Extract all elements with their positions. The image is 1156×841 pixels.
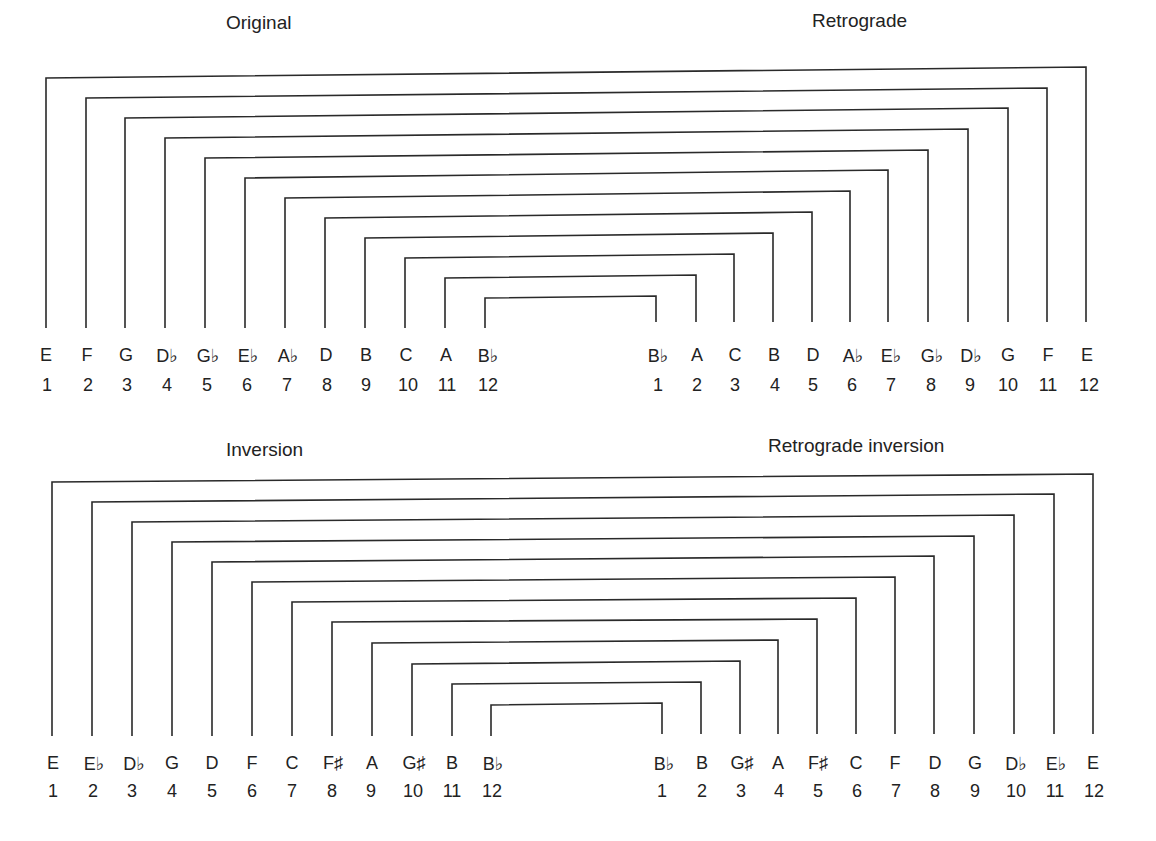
note: E♭: [74, 753, 114, 775]
note: B♭: [644, 753, 684, 775]
note: F: [875, 753, 915, 774]
position-number: 11: [1028, 375, 1068, 396]
note: F: [1028, 345, 1068, 366]
position-number: 5: [187, 375, 227, 396]
position-number: 10: [388, 375, 428, 396]
position-number: 2: [677, 375, 717, 396]
position-number: 3: [715, 375, 755, 396]
note: E♭: [228, 345, 268, 367]
position-number: 4: [152, 781, 192, 802]
position-number: 3: [112, 781, 152, 802]
position-number: 4: [147, 375, 187, 396]
note: C: [386, 345, 426, 366]
bracket-diagram: [0, 0, 1156, 841]
position-number: 1: [638, 375, 678, 396]
position-number: 9: [955, 781, 995, 802]
note: A♭: [833, 345, 873, 367]
position-number: 3: [721, 781, 761, 802]
note: C: [715, 345, 755, 366]
position-number: 7: [871, 375, 911, 396]
note: A: [426, 345, 466, 366]
note: F: [67, 345, 107, 366]
note: A♭: [268, 345, 308, 367]
position-number: 8: [312, 781, 352, 802]
position-number: 6: [232, 781, 272, 802]
note: D♭: [951, 345, 991, 367]
position-number: 6: [837, 781, 877, 802]
position-number: 10: [996, 781, 1036, 802]
position-number: 12: [472, 781, 512, 802]
note: G: [106, 345, 146, 366]
note: F♯: [313, 753, 353, 774]
position-number: 5: [798, 781, 838, 802]
position-number: 11: [427, 375, 467, 396]
note: C: [836, 753, 876, 774]
position-number: 3: [107, 375, 147, 396]
note: A: [677, 345, 717, 366]
position-number: 2: [68, 375, 108, 396]
note: D♭: [114, 753, 154, 775]
note: E: [33, 753, 73, 774]
note: B: [432, 753, 472, 774]
note: D: [192, 753, 232, 774]
position-number: 7: [876, 781, 916, 802]
note: F: [232, 753, 272, 774]
position-number: 2: [73, 781, 113, 802]
position-number: 12: [1074, 781, 1114, 802]
note: B♭: [468, 345, 508, 367]
position-number: 1: [27, 375, 67, 396]
bottom-brackets: [52, 474, 1093, 736]
position-number: 1: [33, 781, 73, 802]
note: F♯: [798, 753, 838, 774]
note: G♭: [188, 345, 228, 367]
note: E♭: [871, 345, 911, 367]
position-number: 10: [988, 375, 1028, 396]
note: D: [793, 345, 833, 366]
note: G: [988, 345, 1028, 366]
note: E: [26, 345, 66, 366]
note: G: [152, 753, 192, 774]
position-number: 6: [227, 375, 267, 396]
position-number: 5: [192, 781, 232, 802]
position-number: 7: [272, 781, 312, 802]
position-number: 9: [351, 781, 391, 802]
position-number: 12: [468, 375, 508, 396]
note: G♭: [912, 345, 952, 367]
note: D: [915, 753, 955, 774]
position-number: 9: [346, 375, 386, 396]
position-number: 4: [755, 375, 795, 396]
position-number: 11: [432, 781, 472, 802]
note: D♭: [147, 345, 187, 367]
note: E: [1073, 753, 1113, 774]
position-number: 10: [393, 781, 433, 802]
note: B: [682, 753, 722, 774]
note: E: [1067, 345, 1107, 366]
note: G♯: [394, 753, 434, 774]
position-number: 8: [307, 375, 347, 396]
note: B: [754, 345, 794, 366]
position-number: 7: [267, 375, 307, 396]
position-number: 2: [682, 781, 722, 802]
position-number: 9: [950, 375, 990, 396]
position-number: 12: [1069, 375, 1109, 396]
note: E♭: [1036, 753, 1076, 775]
note: B♭: [638, 345, 678, 367]
note: A: [758, 753, 798, 774]
note: B♭: [473, 753, 513, 775]
note: D♭: [996, 753, 1036, 775]
position-number: 5: [793, 375, 833, 396]
position-number: 8: [911, 375, 951, 396]
note: G♯: [722, 753, 762, 774]
position-number: 1: [642, 781, 682, 802]
top-brackets: [46, 67, 1086, 328]
position-number: 6: [832, 375, 872, 396]
note: B: [346, 345, 386, 366]
note: A: [352, 753, 392, 774]
position-number: 8: [915, 781, 955, 802]
position-number: 4: [759, 781, 799, 802]
note: D: [306, 345, 346, 366]
position-number: 11: [1035, 781, 1075, 802]
note: G: [955, 753, 995, 774]
note: C: [272, 753, 312, 774]
